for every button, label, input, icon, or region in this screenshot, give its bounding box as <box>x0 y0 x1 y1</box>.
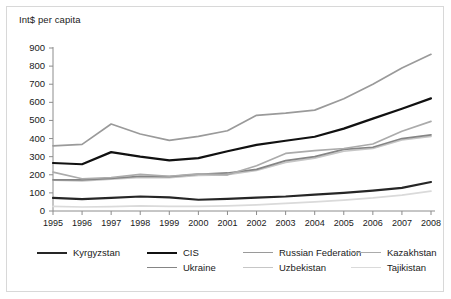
legend-item-tajikistan[interactable]: Tajikistan <box>351 260 426 275</box>
legend-item-kazakhstan[interactable]: Kazakhstan <box>351 245 437 260</box>
legend-item-uzbekistan[interactable]: Uzbekistan <box>243 260 326 275</box>
legend-swatch-cis <box>147 252 177 254</box>
legend-label-cis: CIS <box>183 247 199 258</box>
legend-swatch-kazakhstan <box>351 252 381 253</box>
legend-label-uzbekistan: Uzbekistan <box>279 262 326 273</box>
legend-row: UkraineUzbekistanTajikistan <box>21 260 435 275</box>
legend-label-kazakhstan: Kazakhstan <box>387 247 437 258</box>
legend-swatch-tajikistan <box>351 267 381 268</box>
legend-label-ukraine: Ukraine <box>183 262 216 273</box>
legend-item-kyrgyzstan[interactable]: Kyrgyzstan <box>37 245 120 260</box>
legend-row: KyrgyzstanCISRussian FederationKazakhsta… <box>21 245 435 260</box>
legend-swatch-ukraine <box>147 267 177 268</box>
chart-legend: KyrgyzstanCISRussian FederationKazakhsta… <box>21 245 435 275</box>
legend-swatch-kyrgyzstan <box>37 252 67 254</box>
legend-item-ukraine[interactable]: Ukraine <box>147 260 216 275</box>
legend-label-tajikistan: Tajikistan <box>387 262 426 273</box>
legend-swatch-russian-federation <box>243 252 273 253</box>
chart-canvas: Int$ per capita 900800700600500400300200… <box>7 7 443 291</box>
legend-item-cis[interactable]: CIS <box>147 245 199 260</box>
legend-item-russian-federation[interactable]: Russian Federation <box>243 245 361 260</box>
legend-label-kyrgyzstan: Kyrgyzstan <box>73 247 120 258</box>
series-line-russian-federation <box>53 54 431 145</box>
series-line-cis <box>53 98 431 164</box>
legend-swatch-uzbekistan <box>243 267 273 268</box>
legend-label-russian-federation: Russian Federation <box>279 247 361 258</box>
chart-frame: Int$ per capita 900800700600500400300200… <box>6 6 444 292</box>
series-line-kazakhstan <box>53 121 431 178</box>
